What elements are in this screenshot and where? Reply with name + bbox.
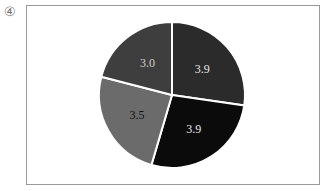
slice-label: 3.9 [195,62,210,76]
slice-label: 3.5 [130,108,145,122]
pie-chart: 3.93.93.53.0 [0,0,327,191]
slice-label: 3.9 [186,122,201,136]
slice-label: 3.0 [140,56,155,70]
